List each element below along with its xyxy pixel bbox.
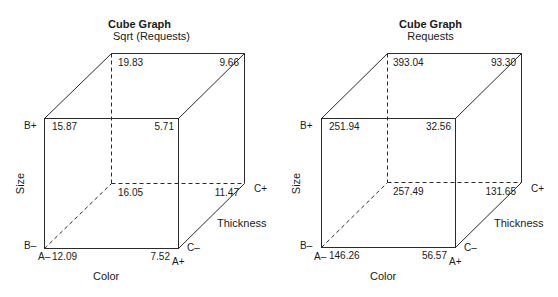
axis-label-size: Size — [14, 172, 27, 196]
cube-graph-requests: Cube Graph Requests 393.04 93.30 251.94 … — [279, 0, 558, 297]
axis-label-thickness: Thickness — [494, 217, 544, 230]
value-front-top-right: 5.71 — [140, 121, 174, 133]
value-front-bottom-left: 146.26 — [329, 250, 360, 262]
cube-bottom-left-depth-edge-hidden — [45, 184, 112, 249]
value-front-top-left: 15.87 — [52, 121, 77, 133]
value-back-top-right: 93.30 — [474, 57, 516, 69]
value-front-top-right: 32.56 — [409, 121, 451, 133]
level-b-plus: B+ — [300, 120, 313, 132]
value-front-bottom-right: 56.57 — [405, 250, 447, 262]
value-back-top-right: 9.66 — [205, 57, 239, 69]
cube-bottom-left-depth-edge-hidden — [322, 183, 388, 248]
value-front-bottom-left: 12.09 — [52, 251, 77, 263]
level-a-plus: A+ — [449, 256, 462, 268]
level-a-minus: A– — [314, 251, 326, 263]
cube-top-left-depth-edge — [45, 54, 112, 119]
value-back-bottom-left: 16.05 — [118, 187, 143, 199]
chart-subtitle: Requests — [291, 30, 558, 43]
axis-label-color: Color — [93, 270, 119, 283]
axis-label-color: Color — [370, 270, 396, 283]
level-b-minus: B– — [300, 240, 312, 252]
cube-top-left-depth-edge — [322, 54, 388, 119]
level-c-minus: C– — [187, 242, 200, 254]
value-back-top-left: 393.04 — [393, 57, 424, 69]
axis-label-thickness: Thickness — [217, 217, 267, 230]
value-back-bottom-right: 11.47 — [205, 187, 239, 199]
value-back-bottom-left: 257.49 — [393, 186, 424, 198]
value-front-bottom-right: 7.52 — [136, 251, 170, 263]
level-c-plus: C+ — [531, 183, 544, 195]
value-back-top-left: 19.83 — [118, 57, 143, 69]
level-c-minus: C– — [464, 242, 477, 254]
level-b-minus: B– — [24, 240, 36, 252]
axis-label-size: Size — [290, 172, 303, 196]
level-b-plus: B+ — [24, 120, 37, 132]
level-c-plus: C+ — [254, 183, 267, 195]
level-a-minus: A– — [38, 251, 50, 263]
value-back-bottom-right: 131.65 — [474, 186, 516, 198]
level-a-plus: A+ — [172, 256, 185, 268]
chart-subtitle: Sqrt (Requests) — [12, 30, 291, 43]
cube-graph-sqrt-requests: Cube Graph Sqrt (Requests) 19.83 9.66 15… — [0, 0, 279, 297]
value-front-top-left: 251.94 — [329, 121, 360, 133]
